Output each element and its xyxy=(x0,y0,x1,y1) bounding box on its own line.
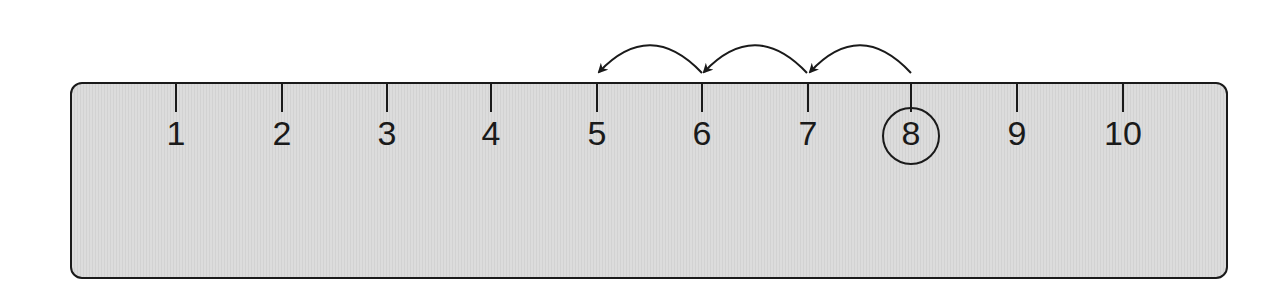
hop-arrows xyxy=(0,0,1287,288)
hop-arrow-6-to-5 xyxy=(599,45,702,73)
hop-arrow-8-to-7 xyxy=(810,45,911,73)
hop-arrow-7-to-6 xyxy=(704,45,807,73)
circle-highlight-8 xyxy=(883,108,939,164)
